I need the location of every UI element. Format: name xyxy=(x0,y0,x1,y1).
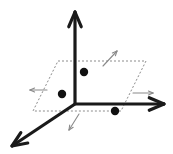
figure-container xyxy=(0,0,173,154)
vector-arrow-up-right xyxy=(103,51,117,66)
point-left xyxy=(58,90,66,98)
x-axis xyxy=(75,98,164,110)
y-axis xyxy=(12,104,75,146)
vector-arrow-right xyxy=(133,91,153,95)
axes-plane-diagram xyxy=(0,0,173,154)
vector-arrow-down-left xyxy=(69,114,79,130)
point-upper xyxy=(80,68,88,76)
y-axis-shaft xyxy=(12,104,75,146)
vector-arrow-down-left-shaft xyxy=(69,114,79,130)
point-lower-right xyxy=(111,107,119,115)
z-axis xyxy=(69,12,81,104)
vector-arrow-up-right-shaft xyxy=(103,51,117,66)
